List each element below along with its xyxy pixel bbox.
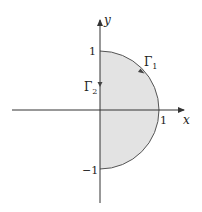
gamma1-symbol: Γ [144,55,152,69]
gamma1-subscript: 1 [152,62,157,71]
gamma2-label: Γ2 [84,80,97,96]
gamma1-label: Γ1 [144,55,157,71]
diagram-canvas: y x 1 1 −1 Γ1 Γ2 [0,0,202,212]
y-tick-one: 1 [89,45,96,58]
gamma2-subscript: 2 [92,87,97,96]
gamma2-symbol: Γ [84,80,92,94]
y-tick-minus-one: −1 [82,164,98,177]
half-disk-diagram: y x 1 1 −1 Γ1 Γ2 [0,0,202,212]
x-tick-one: 1 [160,114,167,127]
x-axis-label: x [183,113,190,127]
y-axis-label: y [103,13,111,27]
